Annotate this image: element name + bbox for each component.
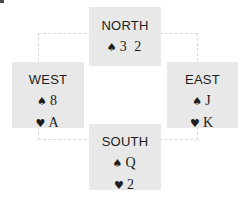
hand-east-heart-row: ♥K (167, 116, 238, 130)
heart-icon: ♥ (190, 117, 200, 130)
hand-box-north: NORTH ♠3 2 (89, 7, 161, 66)
hand-north-spade-row: ♠3 2 (89, 40, 161, 54)
hand-north-spade-cards: 3 2 (120, 39, 144, 54)
heart-icon: ♥ (114, 179, 124, 192)
hand-west-heart-row: ♥A (12, 116, 84, 130)
hand-west-heart-cards: A (48, 115, 60, 130)
spade-icon: ♠ (192, 95, 202, 108)
hand-east-heart-cards: K (203, 115, 215, 130)
hand-label-south: SOUTH (89, 135, 161, 148)
hand-box-west: WEST ♠8 ♥A (12, 62, 84, 128)
spade-icon: ♠ (37, 95, 47, 108)
spade-icon: ♠ (107, 41, 117, 54)
hand-south-heart-cards: 2 (127, 177, 136, 192)
heart-icon: ♥ (36, 117, 46, 130)
scan-artifact (0, 0, 4, 3)
hand-south-heart-row: ♥2 (89, 178, 161, 192)
hand-label-north: NORTH (89, 19, 161, 32)
hand-west-spade-row: ♠8 (12, 94, 84, 108)
hand-south-spade-cards: Q (125, 155, 137, 170)
hand-west-spade-cards: 8 (50, 93, 59, 108)
bridge-hand-diagram: NORTH ♠3 2 WEST ♠8 ♥A EAST ♠J ♥K SOUTH ♠… (0, 0, 250, 199)
hand-box-south: SOUTH ♠Q ♥2 (89, 124, 161, 190)
hand-label-west: WEST (12, 73, 84, 86)
spade-icon: ♠ (113, 157, 123, 170)
hand-south-spade-row: ♠Q (89, 156, 161, 170)
hand-east-spade-row: ♠J (167, 94, 238, 108)
hand-east-spade-cards: J (205, 93, 212, 108)
hand-box-east: EAST ♠J ♥K (167, 62, 238, 128)
hand-label-east: EAST (167, 73, 238, 86)
